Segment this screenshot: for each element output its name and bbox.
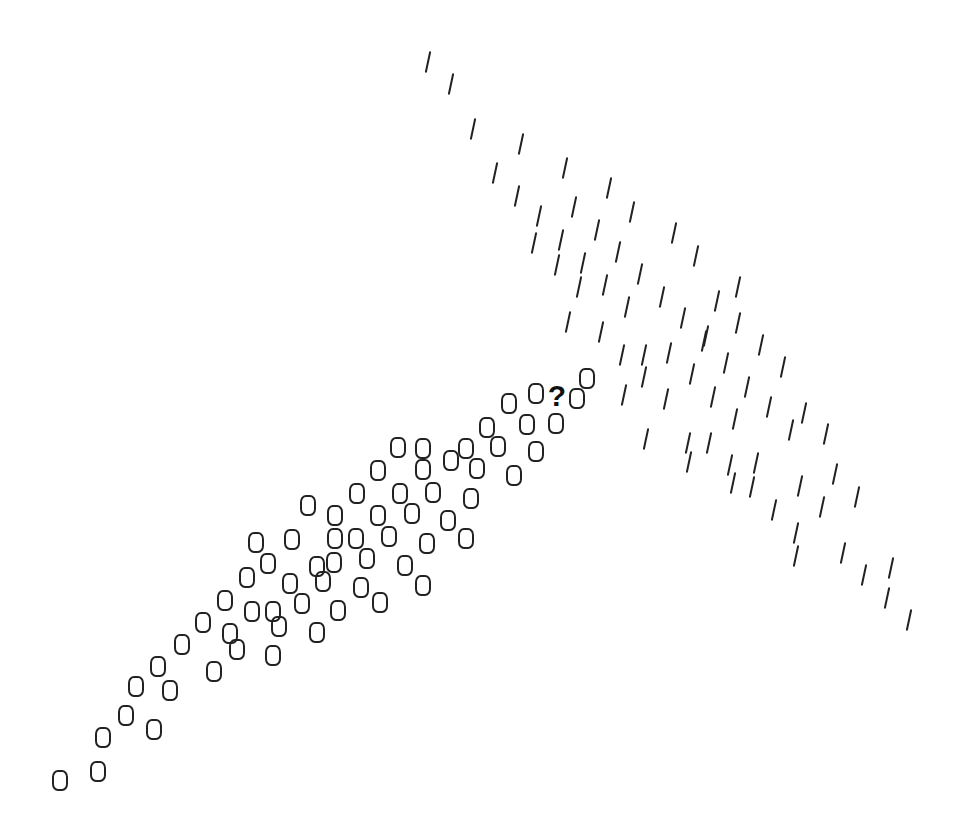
slash-point-glyph: [602, 274, 609, 296]
zero-point-glyph: [501, 393, 517, 414]
zero-point-glyph: [390, 437, 406, 458]
zero-point-glyph: [206, 661, 222, 682]
slash-point-glyph: [448, 73, 455, 95]
slash-point-glyph: [840, 542, 847, 564]
slash-point-glyph: [723, 352, 730, 374]
zero-point-glyph: [174, 634, 190, 655]
slash-point-glyph: [606, 177, 613, 199]
slash-point-glyph: [701, 330, 708, 352]
slash-point-glyph: [689, 363, 696, 385]
slash-point-glyph: [685, 432, 692, 454]
zero-point-glyph: [372, 592, 388, 613]
slash-point-glyph: [558, 229, 565, 251]
zero-point-glyph: [569, 388, 585, 409]
zero-point-glyph: [150, 656, 166, 677]
zero-point-glyph: [300, 495, 316, 516]
zero-point-glyph: [353, 577, 369, 598]
slash-point-glyph: [641, 366, 648, 388]
zero-point-glyph: [528, 383, 544, 404]
slash-point-glyph: [621, 384, 628, 406]
slash-point-glyph: [766, 396, 773, 418]
zero-point-glyph: [579, 368, 595, 389]
slash-point-glyph: [554, 254, 561, 276]
slash-point-glyph: [797, 475, 804, 497]
slash-point-glyph: [793, 545, 800, 567]
slash-point-glyph: [714, 290, 721, 312]
zero-point-glyph: [248, 532, 264, 553]
slash-point-glyph: [730, 472, 737, 494]
zero-point-glyph: [265, 601, 281, 622]
zero-point-glyph: [222, 623, 238, 644]
zero-point-glyph: [463, 488, 479, 509]
slash-point-glyph: [819, 496, 826, 518]
zero-point-glyph: [392, 483, 408, 504]
slash-point-glyph: [562, 157, 569, 179]
slash-point-glyph: [758, 334, 765, 356]
zero-point-glyph: [239, 567, 255, 588]
zero-point-glyph: [90, 761, 106, 782]
slash-point-glyph: [735, 312, 742, 334]
zero-point-glyph: [458, 438, 474, 459]
zero-point-glyph: [327, 505, 343, 526]
zero-point-glyph: [229, 639, 245, 660]
slash-point-glyph: [518, 133, 525, 155]
slash-point-glyph: [884, 587, 891, 609]
slash-point-glyph: [735, 276, 742, 298]
zero-point-glyph: [370, 505, 386, 526]
zero-point-glyph: [330, 600, 346, 621]
zero-point-glyph: [162, 680, 178, 701]
slash-point-glyph: [576, 276, 583, 298]
slash-point-glyph: [771, 499, 778, 521]
zero-point-glyph: [195, 612, 211, 633]
zero-point-glyph: [415, 438, 431, 459]
slash-point-glyph: [666, 342, 673, 364]
slash-point-glyph: [793, 522, 800, 544]
zero-point-glyph: [469, 458, 485, 479]
zero-point-glyph: [348, 528, 364, 549]
zero-point-glyph: [95, 727, 111, 748]
zero-point-glyph: [425, 482, 441, 503]
zero-point-glyph: [146, 719, 162, 740]
zero-point-glyph: [326, 552, 342, 573]
slash-point-glyph: [580, 252, 587, 274]
zero-point-glyph: [370, 460, 386, 481]
zero-point-glyph: [309, 556, 325, 577]
slash-point-glyph: [598, 321, 605, 343]
zero-point-glyph: [244, 601, 260, 622]
zero-point-glyph: [548, 413, 564, 434]
slash-point-glyph: [706, 432, 713, 454]
zero-point-glyph: [128, 676, 144, 697]
slash-point-glyph: [906, 609, 913, 631]
slash-point-glyph: [619, 344, 626, 366]
slash-point-glyph: [680, 307, 687, 329]
slash-point-glyph: [749, 476, 756, 498]
zero-point-glyph: [282, 573, 298, 594]
diagram-canvas: ?: [0, 0, 963, 837]
slash-point-glyph: [753, 452, 760, 474]
slash-point-glyph: [659, 286, 666, 308]
zero-point-glyph: [381, 526, 397, 547]
slash-point-glyph: [643, 428, 650, 450]
zero-point-glyph: [397, 555, 413, 576]
slash-point-glyph: [823, 423, 830, 445]
zero-point-glyph: [458, 528, 474, 549]
slash-point-glyph: [861, 564, 868, 586]
zero-point-glyph: [490, 436, 506, 457]
slash-point-glyph: [470, 118, 477, 140]
zero-point-glyph: [404, 503, 420, 524]
slash-point-glyph: [425, 51, 432, 73]
slash-point-glyph: [615, 241, 622, 263]
slash-point-glyph: [594, 219, 601, 241]
slash-point-glyph: [854, 486, 861, 508]
slash-point-glyph: [788, 419, 795, 441]
slash-point-glyph: [641, 344, 648, 366]
zero-point-glyph: [315, 571, 331, 592]
zero-point-glyph: [415, 459, 431, 480]
zero-point-glyph: [479, 417, 495, 438]
slash-point-glyph: [888, 557, 895, 579]
slash-point-glyph: [780, 356, 787, 378]
zero-point-glyph: [265, 645, 281, 666]
slash-point-glyph: [703, 325, 710, 347]
zero-point-glyph: [528, 441, 544, 462]
zero-point-glyph: [217, 590, 233, 611]
